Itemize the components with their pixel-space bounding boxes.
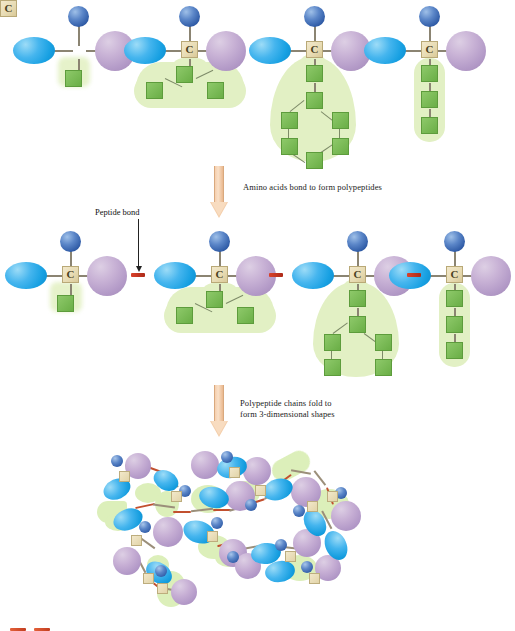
amino-group-sphere bbox=[179, 6, 200, 27]
side-chain-unit bbox=[349, 290, 366, 307]
carbon-label: C bbox=[186, 44, 194, 55]
central-carbon: C bbox=[306, 41, 323, 58]
carboxyl-group-sphere bbox=[446, 31, 486, 71]
step-2-caption: Polypeptide chains fold to form 3-dimens… bbox=[240, 398, 455, 420]
side-chain-unit bbox=[281, 138, 298, 155]
central-carbon bbox=[157, 583, 168, 594]
central-carbon: C bbox=[446, 266, 463, 283]
side-chain-unit bbox=[57, 295, 74, 312]
polypeptide-chain-row: C C bbox=[0, 225, 476, 370]
central-carbon: C bbox=[0, 0, 17, 17]
carbon-label: C bbox=[451, 269, 459, 280]
carbon-label: C bbox=[67, 269, 75, 280]
side-chain-unit bbox=[306, 65, 323, 82]
amino-group-sphere bbox=[139, 521, 151, 533]
side-chain-unit bbox=[281, 112, 298, 129]
amino-group-sphere bbox=[221, 451, 233, 463]
amino-acid-row-free: C C bbox=[0, 0, 476, 165]
step-1-caption: Amino acids bond to form polypeptides bbox=[243, 182, 463, 193]
central-carbon bbox=[327, 491, 338, 502]
amino-group-sphere bbox=[275, 539, 287, 551]
peptide-bond[interactable] bbox=[135, 503, 155, 509]
side-chain-unit bbox=[176, 66, 193, 83]
peptide-bond-3[interactable] bbox=[407, 273, 421, 277]
side-chain-unit bbox=[306, 92, 323, 109]
peptide-bond-label: Peptide bond bbox=[95, 207, 140, 217]
bond-carbon-hydrogen bbox=[53, 50, 73, 52]
central-carbon bbox=[171, 491, 182, 502]
carbon-label: C bbox=[311, 44, 319, 55]
side-chain-unit bbox=[146, 82, 163, 99]
amino-group-sphere bbox=[227, 551, 239, 563]
side-chain-unit bbox=[421, 91, 438, 108]
side-chain-unit bbox=[375, 334, 392, 351]
side-chain-unit bbox=[324, 334, 341, 351]
peptide-bond[interactable] bbox=[173, 511, 191, 513]
central-carbon bbox=[119, 471, 130, 482]
side-chain-unit bbox=[306, 152, 323, 169]
carbon-label: C bbox=[216, 269, 224, 280]
amino-group-sphere bbox=[155, 565, 167, 577]
central-carbon bbox=[255, 485, 266, 496]
hydrogen-group-ellipse bbox=[292, 262, 334, 289]
amino-group-sphere bbox=[245, 499, 257, 511]
bond-carbon-amino bbox=[78, 26, 80, 46]
carboxyl-group-sphere bbox=[113, 547, 141, 575]
folded-protein bbox=[95, 443, 385, 613]
central-carbon bbox=[229, 467, 240, 478]
residue-1: C bbox=[0, 225, 140, 335]
central-carbon: C bbox=[421, 41, 438, 58]
side-chain-unit bbox=[324, 359, 341, 376]
carboxyl-group-sphere bbox=[331, 501, 361, 531]
side-chain-unit bbox=[176, 307, 193, 324]
side-chain-unit bbox=[206, 291, 223, 308]
peptide-bond-1[interactable] bbox=[131, 273, 145, 277]
amino-group-sphere bbox=[301, 561, 313, 573]
carboxyl-group-sphere bbox=[471, 256, 511, 296]
central-carbon: C bbox=[62, 266, 79, 283]
carboxyl-group-sphere bbox=[206, 31, 246, 71]
side-chain-unit bbox=[207, 82, 224, 99]
carbon-label: C bbox=[426, 44, 434, 55]
residue-4: C bbox=[424, 225, 515, 365]
central-carbon bbox=[143, 573, 154, 584]
peptide-bond-pointer bbox=[138, 219, 139, 267]
amino-group-sphere bbox=[444, 231, 465, 252]
residue-3: C bbox=[286, 225, 436, 370]
amino-group-sphere bbox=[347, 231, 368, 252]
amino-group-sphere bbox=[419, 6, 440, 27]
central-carbon: C bbox=[181, 41, 198, 58]
carboxyl-group-sphere bbox=[87, 256, 127, 296]
amino-group-sphere bbox=[209, 231, 230, 252]
central-carbon: C bbox=[211, 266, 228, 283]
hydrogen-group-ellipse bbox=[124, 37, 166, 64]
hydrogen-group-ellipse bbox=[154, 262, 196, 289]
side-chain-unit bbox=[446, 342, 463, 359]
hydrogen-group-ellipse bbox=[13, 37, 55, 64]
amino-acid-4: C bbox=[370, 0, 480, 145]
central-carbon: C bbox=[349, 266, 366, 283]
residue-2: C bbox=[148, 225, 298, 350]
process-arrow-2 bbox=[210, 385, 228, 437]
amino-group-sphere bbox=[304, 6, 325, 27]
carbon-label: C bbox=[354, 269, 362, 280]
amino-group-sphere bbox=[293, 505, 305, 517]
side-chain-unit bbox=[421, 117, 438, 134]
side-chain-unit bbox=[332, 138, 349, 155]
amino-group-sphere bbox=[60, 231, 81, 252]
central-carbon bbox=[131, 535, 142, 546]
peptide-bond-2[interactable] bbox=[269, 273, 283, 277]
process-arrow-1 bbox=[210, 166, 228, 218]
side-chain-unit bbox=[446, 290, 463, 307]
central-carbon bbox=[309, 573, 320, 584]
hydrogen-group-ellipse bbox=[364, 37, 406, 64]
side-chain-unit bbox=[375, 359, 392, 376]
hydrogen-group-ellipse bbox=[249, 37, 291, 64]
carboxyl-group-sphere bbox=[153, 517, 183, 547]
side-chain-unit bbox=[332, 112, 349, 129]
side-chain-unit bbox=[237, 307, 254, 324]
amino-group-sphere bbox=[68, 6, 89, 27]
side-chain-unit bbox=[65, 70, 82, 87]
central-carbon bbox=[207, 531, 218, 542]
